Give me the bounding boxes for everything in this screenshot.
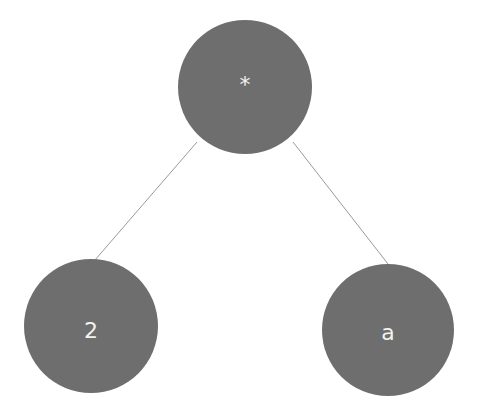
edge-root-left: [95, 142, 197, 260]
node-root: *: [178, 20, 312, 154]
node-right: a: [322, 264, 454, 396]
node-right-label: a: [381, 320, 394, 345]
node-left: 2: [24, 259, 158, 393]
node-root-label: *: [240, 72, 251, 97]
edge-root-right: [293, 142, 388, 264]
node-left-label: 2: [84, 318, 98, 343]
expression-tree-diagram: * 2 a: [0, 0, 485, 413]
